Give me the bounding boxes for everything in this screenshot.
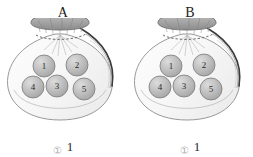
bag-illustration-b: 1 2 4 3 5 xyxy=(127,18,253,136)
ball-5-bag-b-number: 5 xyxy=(209,84,214,94)
bag-group-b: B xyxy=(127,0,253,157)
caption-marker-icon-b: ① xyxy=(180,145,189,157)
ball-1-bag-a: 1 xyxy=(33,55,55,77)
ball-2-bag-a: 2 xyxy=(66,54,88,76)
caption-value-a: 1 xyxy=(67,140,74,153)
figure-root: A xyxy=(0,0,253,157)
ball-3-bag-b: 3 xyxy=(173,75,195,97)
ball-3-bag-a: 3 xyxy=(46,75,68,97)
ball-4-bag-a-number: 4 xyxy=(31,82,36,92)
bag-illustration-a: 1 2 4 3 5 xyxy=(0,18,126,136)
ball-5-bag-a-number: 5 xyxy=(82,84,87,94)
ball-1-bag-b: 1 xyxy=(160,55,182,77)
bag-body-a xyxy=(7,28,112,120)
bag-group-a: A xyxy=(0,0,126,157)
ball-5-bag-b: 5 xyxy=(200,78,222,100)
caption-row-b: ① 1 xyxy=(127,139,253,157)
bag-body-b xyxy=(134,28,239,120)
bag-ruffle-top-a xyxy=(31,18,89,30)
ball-1-bag-b-number: 1 xyxy=(169,61,174,71)
ball-2-bag-a-number: 2 xyxy=(75,60,80,70)
caption-row-a: ① 1 xyxy=(0,139,126,157)
ball-3-bag-b-number: 3 xyxy=(182,81,187,91)
ball-2-bag-b-number: 2 xyxy=(202,60,207,70)
ball-2-bag-b: 2 xyxy=(193,54,215,76)
ball-4-bag-a: 4 xyxy=(22,76,44,98)
ball-5-bag-a: 5 xyxy=(73,78,95,100)
bag-ruffle-top-b xyxy=(158,18,216,30)
ball-3-bag-a-number: 3 xyxy=(55,81,60,91)
caption-marker-icon-a: ① xyxy=(53,145,62,157)
ball-4-bag-b: 4 xyxy=(149,76,171,98)
ball-1-bag-a-number: 1 xyxy=(42,61,47,71)
caption-value-b: 1 xyxy=(194,140,201,153)
ball-4-bag-b-number: 4 xyxy=(158,82,163,92)
